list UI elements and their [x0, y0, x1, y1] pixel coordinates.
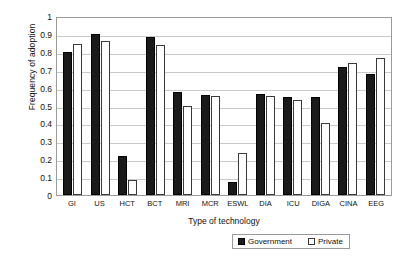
legend-entry-government[interactable]: Government: [238, 237, 292, 246]
x-axis-title: Type of technology: [56, 216, 392, 226]
legend-entry-private[interactable]: Private: [308, 237, 343, 246]
bar-dia-private[interactable]: [266, 96, 275, 195]
bar-cina-government[interactable]: [338, 67, 347, 195]
bar-us-private[interactable]: [101, 41, 110, 195]
y-axis-tick-label: 0.6: [26, 84, 52, 93]
bar-diga-government[interactable]: [311, 97, 320, 195]
plot-area: [56, 17, 392, 196]
bar-group: [169, 18, 197, 195]
bar-mcr-government[interactable]: [201, 95, 210, 195]
bar-bct-government[interactable]: [146, 37, 155, 195]
bar-group: [224, 18, 252, 195]
bar-gi-government[interactable]: [63, 52, 72, 195]
bar-bct-private[interactable]: [156, 45, 165, 195]
bars-layer: [57, 18, 391, 195]
x-axis-tick-label-dia: DIA: [252, 199, 280, 208]
x-axis-tick-label-hct: HCT: [113, 199, 141, 208]
x-axis-tick-label-icu: ICU: [279, 199, 307, 208]
x-axis-tick-label-mri: MRI: [169, 199, 197, 208]
y-axis-tick-labels: 10.90.80.70.60.50.40.30.20.10: [26, 17, 52, 196]
y-axis-tick-label: 0.5: [26, 102, 52, 111]
x-axis-tick-label-cina: CINA: [335, 199, 363, 208]
bar-group: [114, 18, 142, 195]
bar-eeg-private[interactable]: [376, 58, 385, 195]
x-axis-tick-label-eeg: EEG: [362, 199, 390, 208]
bar-hct-government[interactable]: [118, 156, 127, 195]
bar-mri-government[interactable]: [173, 92, 182, 195]
bar-hct-private[interactable]: [128, 180, 137, 195]
bar-group: [142, 18, 170, 195]
y-axis-tick-label: 0.9: [26, 30, 52, 39]
y-axis-tick-label: 1: [26, 13, 52, 22]
y-axis-tick-label: 0.2: [26, 156, 52, 165]
bar-group: [197, 18, 225, 195]
bar-group: [252, 18, 280, 195]
legend-swatch-icon: [238, 238, 245, 245]
bar-eswl-government[interactable]: [228, 182, 237, 195]
bar-group: [307, 18, 335, 195]
bar-group: [59, 18, 87, 195]
bar-chart-figure: Frequency of adoption 10.90.80.70.60.50.…: [0, 0, 410, 265]
bar-group: [279, 18, 307, 195]
bar-diga-private[interactable]: [321, 123, 330, 195]
x-axis-tick-label-eswl: ESWL: [224, 199, 252, 208]
bar-us-government[interactable]: [91, 34, 100, 195]
y-axis-tick-label: 0.1: [26, 174, 52, 183]
x-axis-tick-labels: GIUSHCTBCTMRIMCRESWLDIAICUDIGACINAEEG: [56, 199, 392, 208]
legend-label: Private: [318, 237, 343, 246]
bar-group: [362, 18, 390, 195]
chart-legend: GovernmentPrivate: [232, 234, 350, 249]
legend-swatch-icon: [308, 238, 315, 245]
x-axis-tick-label-bct: BCT: [141, 199, 169, 208]
x-axis-tick-label-gi: GI: [58, 199, 86, 208]
x-axis-tick-label-diga: DIGA: [307, 199, 335, 208]
y-axis-tick-label: 0: [26, 192, 52, 201]
bar-icu-private[interactable]: [293, 100, 302, 195]
bar-mcr-private[interactable]: [211, 96, 220, 195]
y-axis-tick-label: 0.3: [26, 138, 52, 147]
bar-gi-private[interactable]: [73, 44, 82, 195]
y-axis-tick-label: 0.4: [26, 120, 52, 129]
x-axis-tick-label-mcr: MCR: [196, 199, 224, 208]
y-axis-tick-label: 0.8: [26, 48, 52, 57]
bar-eswl-private[interactable]: [238, 153, 247, 195]
bar-group: [334, 18, 362, 195]
y-axis-tick-label: 0.7: [26, 66, 52, 75]
bar-group: [87, 18, 115, 195]
bar-dia-government[interactable]: [256, 94, 265, 195]
bar-icu-government[interactable]: [283, 97, 292, 195]
x-axis-tick-label-us: US: [86, 199, 114, 208]
bar-cina-private[interactable]: [348, 63, 357, 195]
bar-eeg-government[interactable]: [366, 74, 375, 195]
bar-mri-private[interactable]: [183, 106, 192, 196]
legend-label: Government: [248, 237, 292, 246]
